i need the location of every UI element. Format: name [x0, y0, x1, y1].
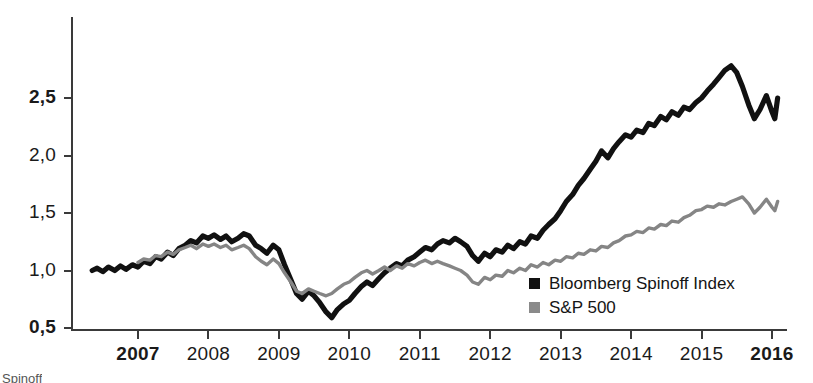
x-tick-label: 2014: [599, 343, 663, 365]
page-footnote: Spinoff: [2, 371, 42, 383]
y-tick-mark: [64, 212, 73, 214]
legend-swatch-gray-icon: [529, 302, 540, 313]
x-tick-mark: [560, 330, 562, 339]
chart-plot-area: [0, 0, 813, 383]
y-tick-mark: [64, 155, 73, 157]
legend-item-sp-500: S&P 500: [529, 296, 735, 318]
y-tick-label: 2,5: [10, 86, 56, 108]
chart-legend: Bloomberg Spinoff Index S&P 500: [529, 272, 735, 320]
x-tick-mark: [630, 330, 632, 339]
x-tick-mark: [701, 330, 703, 339]
x-tick-label: 2011: [388, 343, 452, 365]
chart-container: 0,51,01,52,02,5 200720082009201020112012…: [0, 0, 813, 383]
y-tick-mark: [64, 97, 73, 99]
x-tick-label: 2012: [458, 343, 522, 365]
x-tick-mark: [207, 330, 209, 339]
x-tick-label: 2013: [529, 343, 593, 365]
legend-label-sp-500: S&P 500: [549, 299, 616, 316]
x-tick-mark: [489, 330, 491, 339]
x-tick-label: 2008: [176, 343, 240, 365]
y-tick-label: 1,0: [10, 259, 56, 281]
x-tick-label: 2009: [247, 343, 311, 365]
legend-item-bloomberg-spinoff-index: Bloomberg Spinoff Index: [529, 272, 735, 294]
x-tick-label: 2015: [670, 343, 734, 365]
x-tick-mark: [278, 330, 280, 339]
x-axis-line: [71, 329, 787, 331]
y-tick-label: 1,5: [10, 201, 56, 223]
y-tick-label: 2,0: [10, 144, 56, 166]
x-tick-label: 2007: [106, 343, 170, 365]
y-axis-line: [71, 17, 73, 331]
x-tick-mark: [137, 330, 139, 339]
x-tick-mark: [419, 330, 421, 339]
x-tick-label: 2010: [317, 343, 381, 365]
x-tick-mark: [771, 330, 773, 339]
y-tick-mark: [64, 327, 73, 329]
x-tick-mark: [348, 330, 350, 339]
legend-swatch-black-icon: [529, 278, 540, 289]
y-tick-mark: [64, 270, 73, 272]
legend-label-bloomberg-spinoff-index: Bloomberg Spinoff Index: [549, 275, 735, 292]
y-tick-label: 0,5: [10, 316, 56, 338]
x-tick-label: 2016: [740, 343, 804, 365]
